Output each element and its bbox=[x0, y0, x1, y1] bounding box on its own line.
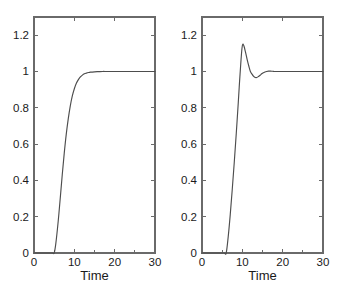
y-tick-label: 0.6 bbox=[13, 138, 29, 150]
figure-container: 00.20.40.60.811.20102030Time 00.20.40.60… bbox=[0, 0, 338, 285]
x-tick-label: 10 bbox=[68, 256, 81, 268]
y-tick-label: 1 bbox=[191, 65, 197, 77]
x-tick-label: 20 bbox=[108, 256, 121, 268]
y-tick-label: 1 bbox=[23, 65, 29, 77]
chart-panel-right: 00.20.40.60.811.20102030Time bbox=[169, 0, 338, 285]
y-tick-label: 0.2 bbox=[181, 211, 197, 223]
y-tick-label: 0 bbox=[191, 247, 197, 259]
line-chart-right: 00.20.40.60.811.20102030Time bbox=[169, 0, 338, 285]
y-tick-label: 1.2 bbox=[181, 29, 197, 41]
y-tick-label: 0.8 bbox=[181, 102, 197, 114]
x-tick-label: 20 bbox=[276, 256, 289, 268]
x-tick-label: 0 bbox=[31, 256, 37, 268]
y-tick-label: 0.8 bbox=[13, 102, 29, 114]
y-tick-label: 0 bbox=[23, 247, 29, 259]
x-tick-label: 30 bbox=[149, 256, 162, 268]
x-tick-label: 0 bbox=[199, 256, 205, 268]
y-tick-label: 0.2 bbox=[13, 211, 29, 223]
y-tick-label: 0.4 bbox=[181, 174, 198, 186]
x-axis-title: Time bbox=[248, 268, 276, 283]
x-axis-title: Time bbox=[80, 268, 108, 283]
x-tick-label: 30 bbox=[317, 256, 330, 268]
y-tick-label: 1.2 bbox=[13, 29, 29, 41]
line-chart-left: 00.20.40.60.811.20102030Time bbox=[0, 0, 169, 285]
y-tick-label: 0.6 bbox=[181, 138, 197, 150]
chart-panel-left: 00.20.40.60.811.20102030Time bbox=[0, 0, 169, 285]
y-tick-label: 0.4 bbox=[13, 174, 30, 186]
axes-frame bbox=[34, 17, 155, 253]
x-tick-label: 10 bbox=[236, 256, 249, 268]
axes-frame bbox=[202, 17, 323, 253]
